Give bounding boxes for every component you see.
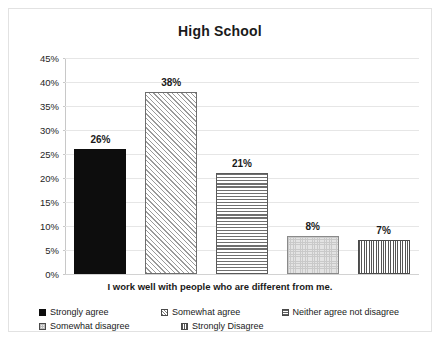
- legend-item[interactable]: Somewhat agree: [161, 307, 281, 317]
- legend-item-label: Strongly agree: [50, 307, 109, 317]
- legend-row-2: Somewhat disagree Strongly Disagree: [39, 319, 419, 333]
- gridline: [65, 82, 419, 83]
- bar[interactable]: [287, 236, 339, 274]
- y-axis-tick-label: 5%: [19, 245, 59, 256]
- y-axis-tick-label: 20%: [19, 173, 59, 184]
- legend-row-1: Strongly agree Somewhat agree Neither ag…: [39, 305, 419, 319]
- bar[interactable]: [216, 173, 268, 274]
- gridline: [65, 274, 419, 275]
- gridline: [65, 130, 419, 131]
- chart-legend: Strongly agree Somewhat agree Neither ag…: [39, 305, 419, 333]
- chart-title: High School: [9, 23, 431, 39]
- legend-swatch-icon: [181, 323, 188, 330]
- legend-item-label: Neither agree not disagree: [293, 307, 400, 317]
- bar[interactable]: [358, 240, 410, 274]
- legend-item-label: Somewhat disagree: [50, 321, 130, 331]
- bar-data-label: 8%: [283, 221, 343, 232]
- bar-data-label: 38%: [141, 77, 201, 88]
- legend-swatch-icon: [161, 309, 168, 316]
- x-axis-title: I work well with people who are differen…: [9, 281, 431, 292]
- gridline: [65, 58, 419, 59]
- y-axis-tick-label: 15%: [19, 197, 59, 208]
- bar[interactable]: [74, 149, 126, 274]
- legend-item[interactable]: Somewhat disagree: [39, 321, 181, 331]
- y-axis-tick-label: 0%: [19, 269, 59, 280]
- legend-item-label: Somewhat agree: [172, 307, 240, 317]
- y-axis-tick-label: 35%: [19, 101, 59, 112]
- legend-swatch-icon: [282, 309, 289, 316]
- bar-data-label: 7%: [354, 225, 414, 236]
- y-axis-tick-label: 30%: [19, 125, 59, 136]
- legend-swatch-icon: [39, 309, 46, 316]
- legend-swatch-icon: [39, 323, 46, 330]
- chart-frame: High School 45%40%35%30%25%20%15%10%5%0%…: [8, 8, 432, 332]
- y-axis-tick-label: 25%: [19, 149, 59, 160]
- legend-item[interactable]: Strongly agree: [39, 307, 161, 317]
- y-axis-tick-label: 40%: [19, 77, 59, 88]
- legend-item-label: Strongly Disagree: [192, 321, 264, 331]
- gridline: [65, 106, 419, 107]
- plot-area: 26%38%21%8%7%: [65, 58, 419, 274]
- y-axis-tick-label: 10%: [19, 221, 59, 232]
- y-axis-tick-label: 45%: [19, 53, 59, 64]
- legend-item[interactable]: Strongly Disagree: [181, 321, 321, 331]
- bar-data-label: 26%: [70, 134, 130, 145]
- y-axis-tick-labels: 45%40%35%30%25%20%15%10%5%0%: [13, 58, 59, 274]
- bar[interactable]: [145, 92, 197, 274]
- bar-data-label: 21%: [212, 158, 272, 169]
- legend-item[interactable]: Neither agree not disagree: [282, 307, 419, 317]
